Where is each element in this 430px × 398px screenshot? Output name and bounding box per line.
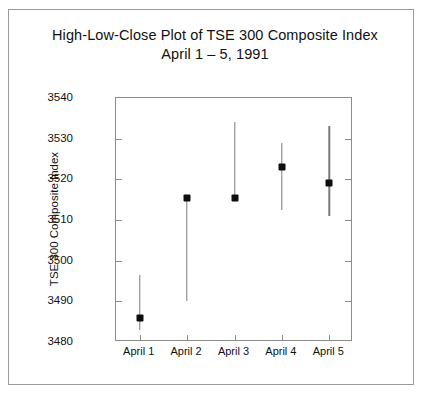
- close-marker: [278, 164, 285, 171]
- plot-inner: [116, 98, 351, 340]
- x-axis-tick: [329, 335, 330, 340]
- plot-area: [115, 97, 352, 341]
- x-axis-tick: [235, 335, 236, 340]
- close-marker: [326, 180, 333, 187]
- high-low-bar: [329, 126, 330, 215]
- y-axis-tick-label: 3510: [18, 213, 78, 225]
- y-axis-tick-label: 3540: [18, 91, 78, 103]
- x-axis-tick: [187, 335, 188, 340]
- x-axis-tick-label: April 5: [298, 345, 358, 357]
- y-axis-tick: [116, 220, 122, 221]
- y-axis-tick: [345, 220, 351, 221]
- y-axis-tick-label: 3480: [18, 335, 78, 347]
- y-axis-tick-label: 3530: [18, 132, 78, 144]
- close-marker: [136, 315, 143, 322]
- y-axis-tick: [345, 261, 351, 262]
- close-marker: [231, 194, 238, 201]
- chart-title: High-Low-Close Plot of TSE 300 Composite…: [0, 26, 430, 45]
- y-axis-tick: [116, 139, 122, 140]
- y-axis-tick: [116, 261, 122, 262]
- y-axis-tick: [345, 179, 351, 180]
- y-axis-tick: [116, 179, 122, 180]
- close-marker: [184, 194, 191, 201]
- high-low-bar: [281, 143, 282, 210]
- y-axis-tick-label: 3490: [18, 294, 78, 306]
- y-axis-tick: [345, 301, 351, 302]
- y-axis-tick-label: 3500: [18, 254, 78, 266]
- y-axis-tick-label: 3520: [18, 172, 78, 184]
- chart-subtitle: April 1 – 5, 1991: [0, 45, 430, 64]
- y-axis-tick: [345, 139, 351, 140]
- x-axis-tick: [282, 335, 283, 340]
- chart-figure: High-Low-Close Plot of TSE 300 Composite…: [0, 0, 430, 398]
- y-axis-tick: [116, 301, 122, 302]
- chart-title-block: High-Low-Close Plot of TSE 300 Composite…: [0, 26, 430, 64]
- high-low-bar: [186, 198, 187, 302]
- high-low-bar: [234, 122, 235, 197]
- x-axis-tick: [140, 335, 141, 340]
